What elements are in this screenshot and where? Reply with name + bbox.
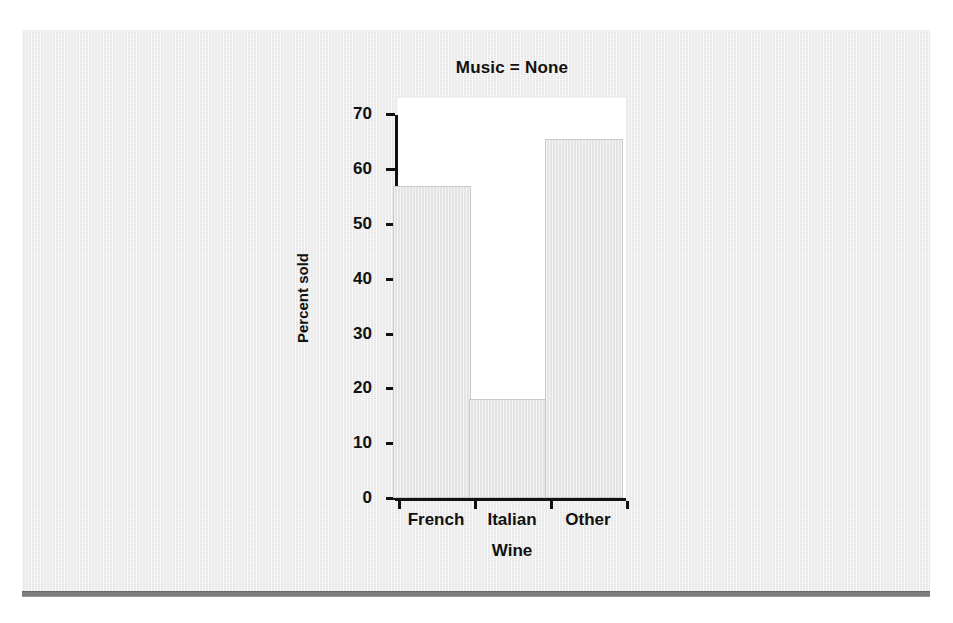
x-axis-tick bbox=[474, 501, 477, 509]
y-axis-tick-label: 60 bbox=[332, 160, 372, 177]
y-axis-tick bbox=[386, 168, 395, 171]
y-axis-tick bbox=[386, 113, 395, 116]
y-axis-tick-label: 50 bbox=[332, 215, 372, 232]
x-axis-category-label: French bbox=[392, 510, 480, 530]
bottom-divider-rule bbox=[22, 591, 930, 597]
y-axis-tick-label: 70 bbox=[332, 105, 372, 122]
x-axis-category-label: Other bbox=[544, 510, 632, 530]
y-axis-tick-label: 30 bbox=[332, 325, 372, 342]
x-axis-title: Wine bbox=[398, 541, 626, 561]
y-axis-tick-label: 40 bbox=[332, 270, 372, 287]
x-axis-tick bbox=[626, 501, 629, 509]
bar bbox=[545, 139, 623, 498]
bar bbox=[469, 399, 547, 498]
y-axis-tick-label: 0 bbox=[332, 489, 372, 506]
chart-title: Music = None bbox=[298, 58, 726, 78]
y-axis-tick-label: 20 bbox=[332, 379, 372, 396]
y-axis-tick-label: 10 bbox=[332, 434, 372, 451]
y-axis-title: Percent sold bbox=[294, 253, 311, 343]
x-axis-line bbox=[395, 498, 626, 501]
bar-chart: Music = None 010203040506070 Percent sol… bbox=[398, 98, 626, 498]
figure: Music = None 010203040506070 Percent sol… bbox=[0, 0, 953, 623]
x-axis-tick bbox=[550, 501, 553, 509]
bar bbox=[393, 186, 471, 498]
x-axis-category-label: Italian bbox=[468, 510, 556, 530]
x-axis-tick bbox=[398, 501, 401, 509]
